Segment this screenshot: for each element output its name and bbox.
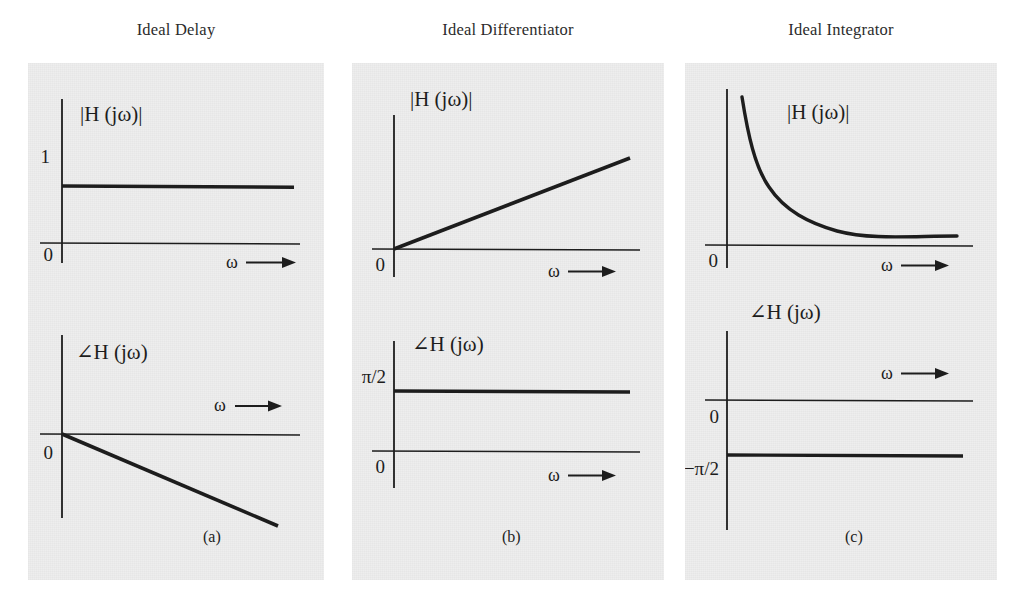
ylabel-magnitude: |H (jω)|	[410, 87, 472, 111]
subplot-a-phase: 0 ∠H (jω) ω	[40, 335, 300, 526]
ylabel-phase: ∠H (jω)	[412, 332, 484, 356]
figure-frequency-responses: Ideal Delay Ideal Differentiator Ideal I…	[0, 0, 1026, 605]
subplot-b-phase: π/2 0 ∠H (jω) ω	[362, 332, 640, 488]
ytick-label-zero: 0	[376, 456, 386, 477]
curve-phase-linear-negative	[62, 434, 278, 526]
plot-ideal-delay: 1 0 |H (jω)| ω 0 ∠H (jω) ω	[28, 63, 324, 580]
ytick-label-pi-over-two: π/2	[362, 366, 386, 387]
x-axis	[40, 434, 300, 435]
ytick-label-zero: 0	[44, 442, 54, 463]
xlabel-omega: ω	[548, 465, 560, 485]
subplot-c-magnitude: 0 |H (jω)| ω	[705, 89, 973, 275]
omega-arrow-icon	[901, 260, 949, 271]
curve-magnitude-constant	[62, 186, 294, 187]
ytick-label-zero: 0	[44, 244, 54, 265]
xlabel-omega: ω	[881, 255, 893, 275]
subplot-a-magnitude: 1 0 |H (jω)| ω	[40, 99, 300, 272]
ytick-label-minus-pi-over-two: −π/2	[685, 458, 719, 479]
omega-arrow-icon	[901, 368, 949, 379]
curve-phase-constant-negative	[727, 455, 963, 456]
ylabel-phase: ∠H (jω)	[76, 340, 148, 364]
subcaption-b: (b)	[502, 528, 521, 546]
x-axis	[705, 245, 973, 246]
curve-magnitude-ramp	[394, 158, 630, 249]
panel-ideal-delay: 1 0 |H (jω)| ω 0 ∠H (jω) ω	[28, 63, 324, 580]
ytick-label-zero: 0	[709, 250, 719, 271]
omega-arrow-icon	[246, 257, 296, 268]
panel-ideal-integrator: 0 |H (jω)| ω 0 −π/2 ∠H (jω) ω	[685, 63, 997, 580]
plot-ideal-integrator: 0 |H (jω)| ω 0 −π/2 ∠H (jω) ω	[685, 63, 997, 580]
panel-ideal-differentiator: 0 |H (jω)| ω π/2 0 ∠H (jω) ω	[352, 63, 664, 580]
ytick-label-zero: 0	[710, 406, 720, 427]
column-title-ideal-delay: Ideal Delay	[28, 20, 324, 40]
ytick-label-zero: 0	[376, 254, 386, 275]
column-title-ideal-differentiator: Ideal Differentiator	[352, 20, 664, 40]
omega-arrow-icon	[568, 470, 616, 481]
omega-arrow-icon	[235, 401, 282, 412]
x-axis	[705, 400, 973, 401]
ylabel-phase: ∠H (jω)	[749, 300, 821, 324]
xlabel-omega: ω	[226, 252, 238, 272]
ylabel-magnitude: |H (jω)|	[80, 102, 142, 126]
ylabel-magnitude: |H (jω)|	[787, 100, 849, 124]
column-title-ideal-integrator: Ideal Integrator	[685, 20, 997, 40]
omega-arrow-icon	[568, 266, 616, 277]
x-axis	[372, 249, 640, 250]
xlabel-omega: ω	[214, 395, 226, 415]
xlabel-omega: ω	[548, 261, 560, 281]
subplot-b-magnitude: 0 |H (jω)| ω	[372, 87, 640, 281]
subcaption-c: (c)	[845, 528, 863, 546]
subplot-c-phase: 0 −π/2 ∠H (jω) ω	[685, 300, 973, 530]
ytick-label-one: 1	[41, 146, 51, 167]
subcaption-a: (a)	[203, 528, 221, 546]
plot-ideal-differentiator: 0 |H (jω)| ω π/2 0 ∠H (jω) ω	[352, 63, 664, 580]
curve-magnitude-reciprocal	[742, 97, 957, 237]
x-axis	[372, 451, 640, 452]
x-axis	[40, 243, 300, 244]
curve-phase-constant-positive	[394, 391, 630, 392]
xlabel-omega: ω	[881, 363, 893, 383]
